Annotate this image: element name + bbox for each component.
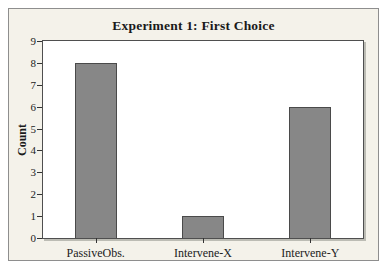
y-tick-label: 2 xyxy=(11,188,36,200)
x-tick-label: Intervene-Y xyxy=(257,246,364,261)
bar-chart-figure: Experiment 1: First Choice Count 0123456… xyxy=(8,8,379,261)
bars-container xyxy=(43,41,363,238)
plot-area xyxy=(42,40,364,239)
x-tick-mark xyxy=(96,238,97,243)
y-tick-mark xyxy=(37,238,42,239)
y-tick-mark xyxy=(37,194,42,195)
bar-slot xyxy=(256,41,363,238)
y-tick-label: 4 xyxy=(11,144,36,156)
bar-Intervene-X xyxy=(182,216,224,238)
y-tick-mark xyxy=(37,216,42,217)
y-tick-mark xyxy=(37,129,42,130)
x-tick-mark xyxy=(310,238,311,243)
y-tick-label: 0 xyxy=(11,232,36,244)
y-tick-label: 1 xyxy=(11,210,36,222)
y-tick-mark xyxy=(37,107,42,108)
y-tick-mark xyxy=(37,41,42,42)
y-tick-mark xyxy=(37,150,42,151)
y-tick-label: 7 xyxy=(11,79,36,91)
x-tick-label: PassiveObs. xyxy=(42,246,149,261)
bar-Intervene-Y xyxy=(289,107,331,238)
y-tick-mark xyxy=(37,63,42,64)
y-tick-label: 5 xyxy=(11,123,36,135)
y-axis-label: Count xyxy=(15,105,29,175)
y-tick-label: 9 xyxy=(11,35,36,47)
bar-PassiveObs. xyxy=(75,63,117,238)
chart-title: Experiment 1: First Choice xyxy=(9,18,378,34)
x-tick-mark xyxy=(203,238,204,243)
y-tick-mark xyxy=(37,172,42,173)
x-tick-label: Intervene-X xyxy=(149,246,256,261)
x-axis-labels: PassiveObs.Intervene-XIntervene-Y xyxy=(42,246,364,261)
y-tick-label: 8 xyxy=(11,57,36,69)
bar-slot xyxy=(43,41,150,238)
y-tick-mark xyxy=(37,85,42,86)
y-tick-label: 3 xyxy=(11,166,36,178)
bar-slot xyxy=(150,41,257,238)
y-tick-label: 6 xyxy=(11,101,36,113)
